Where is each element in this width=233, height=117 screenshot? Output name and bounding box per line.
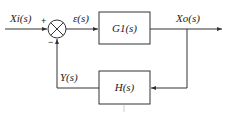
feedback-block-label: H(s)	[114, 81, 135, 94]
minus-sign: −	[48, 37, 53, 47]
error-label: ε(s)	[73, 12, 89, 25]
plus-sign: +	[41, 16, 46, 26]
forward-block-label: G1(s)	[112, 22, 137, 35]
summing-junction	[48, 20, 66, 38]
block-diagram: Xi(s) + − ε(s) G1(s) Xo(s) H(s) Y(s)	[0, 0, 233, 117]
input-label: Xi(s)	[9, 12, 32, 25]
feedback-label: Y(s)	[60, 71, 78, 84]
output-label: Xo(s)	[175, 12, 200, 25]
feedback-tap-line	[151, 29, 187, 88]
